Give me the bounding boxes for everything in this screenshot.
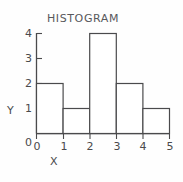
x-tick-label-4: 4 xyxy=(137,140,149,153)
bar-group xyxy=(37,34,170,134)
histogram-bar xyxy=(63,109,90,134)
x-axis-label: X xyxy=(50,155,58,168)
x-tick-label-0: 0 xyxy=(31,140,43,153)
y-tick-label-1: 1 xyxy=(20,102,32,115)
x-tick-label-5: 5 xyxy=(164,140,176,153)
histogram-bar xyxy=(116,84,143,134)
x-tick-label-3: 3 xyxy=(111,140,123,153)
histogram-bar xyxy=(37,84,64,134)
histogram-bar xyxy=(90,34,117,134)
y-tick-label-4: 4 xyxy=(20,27,32,40)
y-tick-label-2: 2 xyxy=(20,77,32,90)
x-tick-label-2: 2 xyxy=(84,140,96,153)
histogram-chart: HISTOGRAM 4 3 2 1 0 0 1 2 3 4 5 Y X xyxy=(0,0,183,182)
histogram-bar xyxy=(143,109,170,134)
y-tick-label-3: 3 xyxy=(20,52,32,65)
x-tick-label-1: 1 xyxy=(58,140,70,153)
y-axis-label: Y xyxy=(7,104,14,117)
